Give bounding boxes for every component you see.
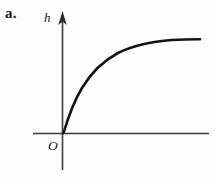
origin-label: O — [48, 138, 58, 153]
curve-h — [64, 39, 201, 133]
figure-container: a. h O — [0, 0, 215, 178]
y-axis-label: h — [44, 10, 51, 25]
plot-area: h O — [0, 0, 215, 178]
